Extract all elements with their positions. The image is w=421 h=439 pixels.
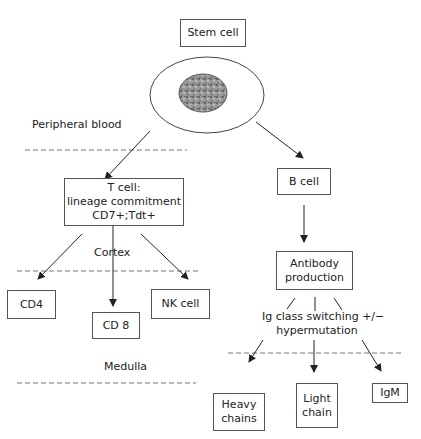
cd8-label: CD 8 (103, 319, 130, 333)
cortex-label: Cortex (94, 246, 130, 260)
ig-switch-line-2: hypermutation (262, 324, 372, 338)
arrow-stem-to-bcell (256, 122, 303, 158)
arrow-tcell-to-cd4 (38, 234, 82, 279)
antibody-production-node: Antibody production (276, 251, 353, 290)
stem-cell-node: Stem cell (180, 19, 246, 47)
branch-stroke-left (287, 298, 295, 309)
light-label-1: Light (303, 392, 330, 406)
stem-cell-nucleus (179, 74, 227, 112)
igm-node: IgM (372, 383, 408, 403)
branch-stroke-right (334, 298, 342, 310)
ig-switch-line-1: Ig class switching +/− (262, 310, 372, 324)
b-cell-node: B cell (277, 168, 331, 195)
antibody-label-2: production (285, 271, 344, 285)
antibody-label-1: Antibody (290, 257, 339, 271)
light-chain-node: Light chain (296, 383, 338, 428)
peripheral-blood-label: Peripheral blood (32, 118, 122, 132)
nk-cell-node: NK cell (151, 289, 210, 319)
heavy-label-2: chains (221, 412, 257, 426)
igm-label: IgM (380, 386, 400, 400)
t-cell-label-1: T cell: (108, 181, 141, 195)
arrow-to-heavy (249, 340, 263, 362)
t-cell-label-3: CD7+;Tdt+ (92, 209, 155, 223)
heavy-chains-node: Heavy chains (213, 393, 265, 431)
cd8-node: CD 8 (92, 312, 140, 339)
nk-cell-label: NK cell (162, 297, 200, 311)
t-cell-label-2: lineage commitment (67, 195, 181, 209)
t-cell-node: T cell: lineage commitment CD7+;Tdt+ (64, 178, 184, 226)
heavy-label-1: Heavy (222, 398, 257, 412)
arrow-stem-to-tcell (105, 131, 150, 179)
cd4-node: CD4 (7, 290, 56, 319)
cd4-label: CD4 (20, 298, 43, 312)
stem-cell-label: Stem cell (187, 26, 238, 40)
ig-class-switching-label: Ig class switching +/− hypermutation (262, 310, 372, 338)
light-label-2: chain (302, 406, 332, 420)
b-cell-label: B cell (289, 175, 319, 189)
arrow-to-igm (362, 340, 381, 371)
medulla-label: Medulla (104, 360, 147, 374)
arrow-tcell-to-nk (141, 234, 188, 279)
